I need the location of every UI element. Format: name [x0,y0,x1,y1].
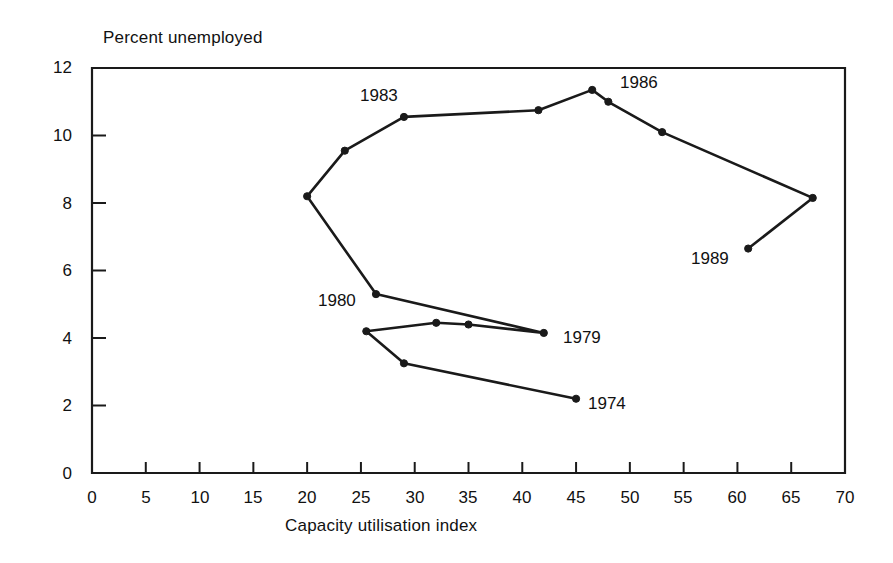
plot-border [92,68,845,473]
axis-ticks [92,136,791,474]
series-markers [304,86,817,402]
data-point-1976 [363,328,370,335]
axis-frame [92,68,845,473]
series-polyline [307,90,813,399]
data-point-1985 [589,86,596,93]
data-point-1984 [535,107,542,114]
data-point-1982 [341,147,348,154]
data-point-1989 [745,245,752,252]
plot-area [0,0,893,563]
data-point-1981 [304,193,311,200]
data-point-1980 [372,291,379,298]
chart-figure: Percent unemployed Capacity utilisation … [0,0,893,563]
data-point-1975 [400,360,407,367]
data-point-1978 [465,321,472,328]
data-point-1987 [659,129,666,136]
data-point-1977 [433,319,440,326]
series-line [307,90,813,399]
data-point-1986 [605,98,612,105]
data-point-1979 [540,329,547,336]
data-point-1983 [400,113,407,120]
data-point-1988 [809,194,816,201]
data-point-1974 [572,395,579,402]
